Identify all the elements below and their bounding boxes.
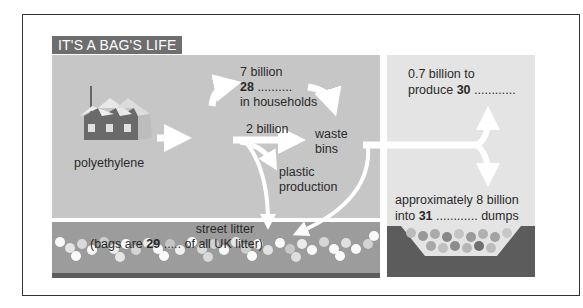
blank-28: .......... xyxy=(254,80,292,94)
question-number-28: 28 xyxy=(240,80,254,94)
label-bins: bins xyxy=(315,142,338,157)
question-31: into 31 ............ dumps xyxy=(395,209,519,224)
blank-29: ..... of all UK litter) xyxy=(160,237,263,251)
produce-text: produce xyxy=(408,83,457,97)
label-polyethylene: polyethylene xyxy=(74,156,144,171)
label-waste: waste xyxy=(315,127,348,142)
blank-31: ............ dumps xyxy=(433,209,519,223)
label-in-households: in households xyxy=(240,95,317,110)
question-29: (bags are 29 ..... of all UK litter) xyxy=(90,237,263,252)
litter-text: (bags are xyxy=(90,237,146,251)
question-30: produce 30 ............ xyxy=(408,83,516,98)
label-street-litter: street litter xyxy=(100,222,350,237)
dump-pit-icon xyxy=(387,226,535,284)
label-households-count: 7 billion xyxy=(240,65,282,80)
question-number-29: 29 xyxy=(146,237,160,251)
dumps-text: into xyxy=(395,209,419,223)
label-produce-line1: 0.7 billion to xyxy=(408,67,475,82)
label-dumps-line1: approximately 8 billion xyxy=(395,193,519,208)
question-28: 28 .......... xyxy=(240,80,292,95)
factory-icon xyxy=(80,86,160,146)
label-two-billion: 2 billion xyxy=(246,122,288,137)
label-production: production xyxy=(279,180,337,195)
question-number-30: 30 xyxy=(457,83,471,97)
blank-30: ............ xyxy=(471,83,516,97)
label-plastic: plastic xyxy=(279,165,314,180)
question-number-31: 31 xyxy=(419,209,433,223)
